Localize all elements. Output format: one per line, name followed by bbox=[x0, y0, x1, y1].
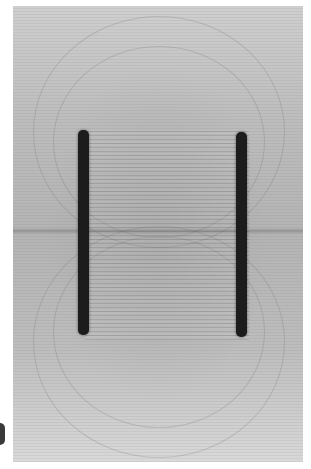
right-plate bbox=[236, 132, 247, 337]
field-line-photograph bbox=[13, 6, 303, 462]
midplane-line bbox=[13, 228, 303, 234]
left-plate bbox=[78, 130, 89, 335]
uniform-field-region bbox=[85, 130, 249, 340]
cropped-label-mark bbox=[0, 423, 5, 445]
